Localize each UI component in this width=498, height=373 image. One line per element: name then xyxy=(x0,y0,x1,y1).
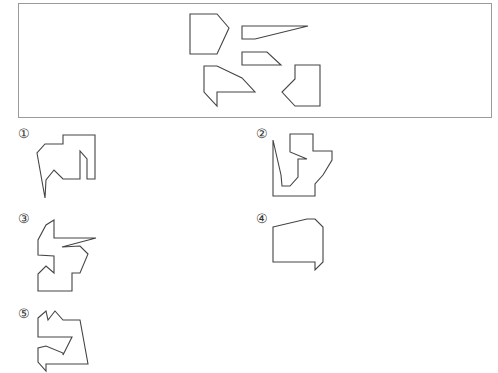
option-2-figure[interactable] xyxy=(273,134,332,196)
piece-trapezoid xyxy=(242,52,281,65)
options-group xyxy=(37,134,332,371)
option-2-label[interactable]: ② xyxy=(256,127,268,140)
option-3-label[interactable]: ③ xyxy=(18,212,30,225)
option-3-figure[interactable] xyxy=(38,220,96,291)
option-5-label[interactable]: ⑤ xyxy=(18,307,30,320)
piece-wedge xyxy=(242,26,308,39)
option-4-figure[interactable] xyxy=(273,219,323,270)
figures-canvas xyxy=(0,0,498,373)
piece-arrow xyxy=(204,66,255,106)
piece-notched-rect xyxy=(282,65,320,106)
pieces-group xyxy=(190,14,320,106)
piece-pentagon xyxy=(190,14,229,54)
option-4-label[interactable]: ④ xyxy=(256,212,268,225)
option-5-figure[interactable] xyxy=(38,311,88,371)
option-1-label[interactable]: ① xyxy=(18,127,30,140)
option-1-figure[interactable] xyxy=(37,135,95,198)
